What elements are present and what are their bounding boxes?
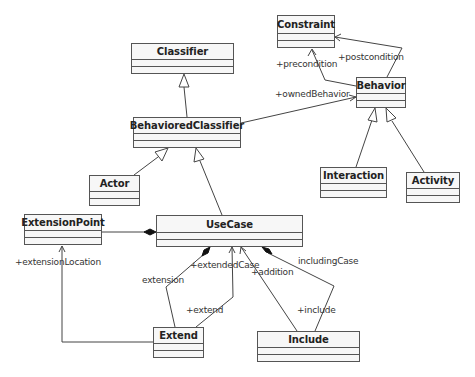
class-activity[interactable]: Activity — [406, 172, 460, 203]
attributes-compartment — [278, 33, 334, 40]
label-precondition: +precondition — [276, 59, 337, 69]
class-extend[interactable]: Extend — [153, 327, 204, 358]
operations-compartment — [154, 350, 203, 357]
class-behavior[interactable]: Behavior — [356, 77, 406, 108]
bc-classifier-generalization — [184, 87, 187, 117]
attributes-compartment — [407, 188, 459, 195]
composition-diamond-icon — [144, 229, 156, 235]
class-name: Classifier — [132, 44, 233, 59]
class-include[interactable]: Include — [257, 331, 360, 362]
class-name: Activity — [407, 173, 459, 188]
operations-compartment — [321, 190, 386, 197]
activity-behavior-generalization — [392, 121, 424, 172]
class-extensionpoint[interactable]: ExtensionPoint — [24, 214, 102, 245]
interaction-behavior-generalization — [356, 120, 372, 167]
operations-compartment — [258, 354, 359, 361]
attributes-compartment — [321, 183, 386, 190]
attributes-compartment — [25, 230, 101, 237]
class-interaction[interactable]: Interaction — [320, 167, 387, 198]
class-constraint[interactable]: Constraint — [277, 15, 335, 48]
class-classifier[interactable]: Classifier — [131, 43, 234, 74]
class-name: UseCase — [157, 216, 302, 232]
attributes-compartment — [134, 133, 240, 140]
label-postcondition: +postcondition — [338, 52, 404, 62]
generalization-triangle-icon — [386, 108, 396, 122]
generalization-triangle-icon — [194, 148, 204, 162]
generalization-triangle-icon — [179, 74, 189, 87]
attributes-compartment — [357, 93, 405, 100]
label-include: +include — [297, 305, 336, 315]
class-usecase[interactable]: UseCase — [156, 215, 303, 247]
attributes-compartment — [90, 191, 139, 198]
extendedCase-association — [196, 247, 233, 327]
attributes-compartment — [157, 232, 302, 239]
class-behavioredclassifier[interactable]: BehavioredClassifier — [133, 117, 241, 148]
generalization-triangle-icon — [155, 148, 168, 161]
ownedBehavior-association — [241, 97, 356, 123]
class-name: Extend — [154, 328, 203, 343]
class-name: Behavior — [357, 78, 405, 93]
operations-compartment — [157, 239, 302, 246]
operations-compartment — [407, 195, 459, 202]
generalization-triangle-icon — [368, 108, 377, 122]
label-ownedBehavior: +ownedBehavior — [275, 89, 350, 99]
label-extend: +extend — [186, 305, 223, 315]
operations-compartment — [357, 100, 405, 107]
label-extension: extension — [142, 275, 184, 285]
operations-compartment — [90, 198, 139, 205]
operations-compartment — [134, 140, 240, 147]
attributes-compartment — [132, 59, 233, 66]
class-actor[interactable]: Actor — [89, 175, 140, 206]
attributes-compartment — [258, 347, 359, 354]
attributes-compartment — [154, 343, 203, 350]
label-extensionLocation: +extensionLocation — [15, 257, 101, 267]
class-name: Actor — [90, 176, 139, 191]
operations-compartment — [132, 66, 233, 73]
label-addition: +addition — [251, 267, 293, 277]
composition-diamond-icon — [202, 247, 210, 256]
class-name: BehavioredClassifier — [134, 118, 240, 133]
label-includingCase: includingCase — [298, 256, 358, 266]
class-name: Constraint — [278, 16, 334, 33]
actor-bc-generalization — [134, 157, 158, 175]
class-name: Interaction — [321, 168, 386, 183]
class-name: ExtensionPoint — [25, 215, 101, 230]
usecase-bc-generalization — [200, 161, 222, 215]
composition-diamond-icon — [262, 247, 272, 254]
label-extendedCase: +extendedCase — [190, 260, 259, 270]
operations-compartment — [25, 237, 101, 244]
class-name: Include — [258, 332, 359, 347]
operations-compartment — [278, 40, 334, 47]
